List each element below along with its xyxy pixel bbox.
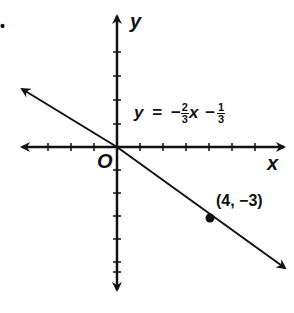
y-axis-label: y bbox=[130, 10, 141, 33]
point-label: (4, −3) bbox=[216, 192, 263, 210]
x-axis bbox=[22, 143, 284, 151]
coordinate-plane bbox=[0, 0, 294, 313]
eq-neg: − bbox=[171, 103, 181, 122]
x-axis-label: x bbox=[267, 152, 278, 175]
eq-coefficient: 23 bbox=[181, 102, 189, 125]
eq-lhs: y bbox=[134, 103, 143, 122]
point-marker bbox=[206, 214, 215, 223]
eq-minus: − bbox=[205, 103, 215, 122]
y-axis bbox=[113, 16, 121, 290]
eq-equals: = bbox=[152, 103, 162, 122]
origin-label: O bbox=[97, 150, 113, 173]
eq-var: x bbox=[189, 103, 198, 122]
bullet: • bbox=[0, 18, 5, 34]
eq-constant: 13 bbox=[217, 102, 225, 125]
equation-label: y = −23x −13 bbox=[134, 102, 225, 125]
